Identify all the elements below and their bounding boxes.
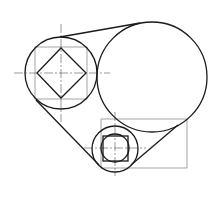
technical-drawing bbox=[0, 0, 218, 197]
small-inner-square bbox=[103, 136, 128, 161]
left-tangent-line bbox=[36, 100, 99, 165]
top-tangent-line bbox=[60, 23, 140, 37]
large-circle bbox=[97, 22, 207, 132]
